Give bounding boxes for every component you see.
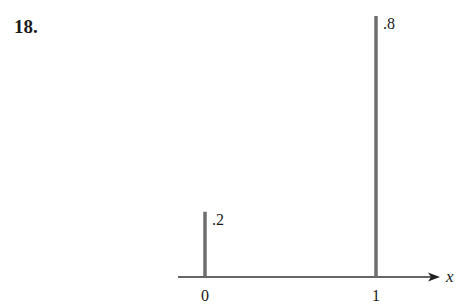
- x-tick-label: 0: [201, 287, 209, 304]
- x-axis-label: x: [445, 267, 454, 286]
- x-tick-labels: 01: [201, 287, 380, 304]
- bars: .2.8: [205, 15, 395, 277]
- chart: x .2.8 01: [0, 0, 473, 307]
- bar-value-label: .8: [383, 15, 395, 32]
- x-tick-label: 1: [372, 287, 380, 304]
- bar-value-label: .2: [212, 211, 224, 228]
